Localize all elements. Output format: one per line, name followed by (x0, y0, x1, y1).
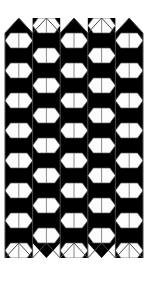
black-field (5, 18, 143, 273)
artwork-canvas (0, 0, 152, 285)
pattern-ink-base (5, 18, 143, 273)
mask-bottom (0, 258, 152, 285)
mask-left (0, 0, 5, 285)
hexagonal-tessellation-pattern (0, 0, 152, 285)
mask-right (143, 0, 152, 285)
mask-top (0, 0, 152, 18)
